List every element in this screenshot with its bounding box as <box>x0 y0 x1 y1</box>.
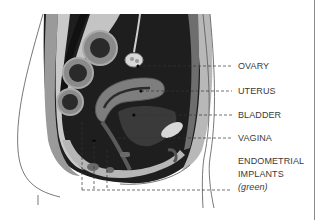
endometrial-implant <box>120 152 130 157</box>
ovary-follicle <box>135 59 139 63</box>
label-uterus: UTERUS <box>238 86 276 96</box>
label-green: (green) <box>238 182 268 192</box>
label-vagina: VAGINA <box>238 133 272 143</box>
intestine-loop-2-lumen <box>69 64 87 82</box>
intestine-loop-3-lumen <box>62 94 78 110</box>
endometrial-implant <box>87 163 99 171</box>
label-implants: IMPLANTS <box>238 169 284 179</box>
ovary-follicle <box>130 57 134 61</box>
intestine-loop-1-lumen <box>90 38 110 58</box>
ovary <box>125 53 143 67</box>
frame-border <box>314 0 315 220</box>
label-endometrial: ENDOMETRIAL <box>238 156 304 166</box>
label-ovary: OVARY <box>238 61 269 71</box>
label-bladder: BLADDER <box>238 110 281 120</box>
